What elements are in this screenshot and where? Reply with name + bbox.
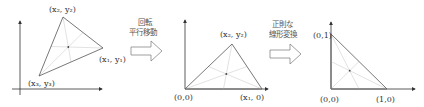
arrow-label-line1: 正則な: [272, 20, 293, 29]
block-arrow-icon: [131, 41, 162, 61]
vertex-label-x2y2: (x₂, y₂): [49, 5, 76, 14]
vertex-label-origin: (0,0): [320, 95, 339, 104]
vertex-label-0-1: (0,1): [313, 31, 332, 40]
arrow-label-line2: 線形変換: [269, 29, 298, 39]
panel-rotated: (x₂, y₂) (0,0) (x₁, 0): [174, 20, 268, 102]
centroid: [225, 73, 227, 75]
triangle: [185, 44, 262, 89]
arrow-label-line2: 平行移動: [129, 27, 158, 37]
vertex-label-x3y3: (x₃, y₃): [28, 79, 55, 88]
vertex-label-1-0: (1,0): [376, 95, 395, 104]
vertex-label-x2y2: (x₂, y₂): [220, 30, 247, 39]
vertex-label-origin: (0,0): [174, 93, 193, 102]
triangle-transform-diagram: (x₂, y₂) (x₁, y₁) (x₃, y₃) 回転 平行移動 (x₂, …: [0, 0, 424, 107]
block-arrow-icon: [270, 44, 301, 64]
medians: [185, 44, 262, 89]
vertex-label-x1-0: (x₁, 0): [240, 93, 264, 102]
transform-arrow-1: 回転 平行移動: [129, 18, 162, 61]
triangle: [39, 17, 103, 76]
panel-original: (x₂, y₂) (x₁, y₁) (x₃, y₃): [12, 5, 126, 95]
centroid: [349, 70, 351, 72]
transform-arrow-2: 正則な 線形変換: [269, 20, 301, 64]
vertex-label-x1y1: (x₁, y₁): [99, 55, 126, 64]
centroid: [67, 46, 69, 48]
medians: [39, 17, 103, 76]
arrow-label-line1: 回転: [138, 18, 153, 27]
panel-normalized: (0,1) (0,0) (1,0): [313, 22, 415, 104]
